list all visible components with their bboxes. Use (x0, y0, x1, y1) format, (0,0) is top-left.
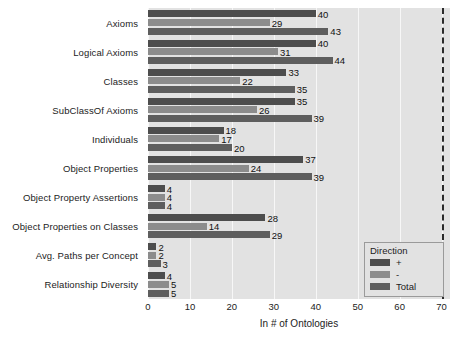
bar-value-label: 31 (278, 46, 291, 57)
y-axis-label: Object Properties (63, 163, 138, 174)
bar-value-label: 22 (240, 75, 253, 86)
bar-minus (148, 165, 249, 172)
y-axis-label: Relationship Diversity (44, 279, 138, 290)
legend-entry-label: Total (396, 282, 416, 291)
bar-value-label: 35 (295, 84, 308, 95)
bar-value-label: 5 (169, 288, 176, 299)
bar-minus (148, 194, 165, 201)
x-axis-tick-label: 70 (436, 301, 447, 312)
x-axis-tick-label: 20 (227, 301, 238, 312)
bar-total (148, 144, 232, 151)
x-axis-tick-label: 40 (310, 301, 321, 312)
y-axis-label: SubClassOf Axioms (52, 104, 138, 115)
bar-minus (148, 281, 169, 288)
legend-title: Direction (370, 245, 439, 256)
bar-value-label: 14 (207, 221, 220, 232)
y-axis-label: Object Property Assertions (23, 192, 138, 203)
bar-value-label: 37 (303, 154, 316, 165)
bar-plus (148, 69, 286, 76)
bar-value-label: 33 (286, 67, 299, 78)
gridline (358, 8, 359, 299)
bar-total (148, 28, 328, 35)
x-axis-tick-label: 50 (352, 301, 363, 312)
bar-value-label: 3 (161, 258, 168, 269)
bar-value-label: 39 (312, 171, 325, 182)
bar-value-label: 26 (257, 104, 270, 115)
x-axis-tick-label: 0 (145, 301, 150, 312)
bar-plus (148, 98, 295, 105)
bar-value-label: 17 (219, 133, 232, 144)
legend-entry[interactable]: - (370, 269, 439, 280)
gridline (316, 8, 317, 299)
bar-value-label: 40 (316, 8, 329, 19)
y-axis-label: Individuals (92, 133, 138, 144)
bar-value-label: 39 (312, 113, 325, 124)
y-axis-label: Avg. Paths per Concept (36, 250, 138, 261)
legend-entry[interactable]: + (370, 257, 439, 268)
bar-plus (148, 272, 165, 279)
legend-entries: +-Total (370, 257, 439, 292)
bar-value-label: 40 (316, 38, 329, 49)
bar-value-label: 29 (270, 17, 283, 28)
bar-total (148, 57, 333, 64)
bar-total (148, 173, 312, 180)
bar-value-label: 44 (333, 55, 346, 66)
legend-entry[interactable]: Total (370, 281, 439, 292)
x-axis-tick-label: 10 (185, 301, 196, 312)
bar-value-label: 35 (295, 96, 308, 107)
bar-value-label: 4 (165, 200, 172, 211)
bar-value-label: 28 (265, 212, 278, 223)
bar-total (148, 290, 169, 297)
bar-minus (148, 48, 278, 55)
bar-total (148, 115, 312, 122)
legend-entry-label: + (396, 258, 402, 267)
bar-minus (148, 223, 207, 230)
legend[interactable]: Direction +-Total (364, 242, 444, 297)
legend-swatch-icon (370, 283, 390, 290)
x-axis-tick-label: 60 (394, 301, 405, 312)
bar-minus (148, 19, 270, 26)
bar-total (148, 86, 295, 93)
legend-entry-label: - (396, 270, 399, 279)
bar-minus (148, 77, 240, 84)
legend-swatch-icon (370, 271, 390, 278)
y-axis-label: Axioms (106, 17, 138, 28)
x-axis-title: In # of Ontologies (148, 318, 450, 329)
bar-minus (148, 135, 219, 142)
bar-value-label: 24 (249, 163, 262, 174)
legend-swatch-icon (370, 259, 390, 266)
bar-plus (148, 127, 224, 134)
bar-chart: 4029434031443322353526391817203724394442… (0, 0, 468, 339)
x-axis-tick-label: 30 (269, 301, 280, 312)
bar-value-label: 29 (270, 229, 283, 240)
bar-plus (148, 243, 156, 250)
x-axis-ticks: 010203040506070 (148, 299, 450, 319)
y-axis-label: Object Properties on Classes (12, 221, 138, 232)
bar-value-label: 20 (232, 142, 245, 153)
bar-total (148, 260, 161, 267)
bar-minus (148, 252, 156, 259)
y-axis-category-labels: AxiomsLogical AxiomsClassesSubClassOf Ax… (0, 8, 144, 299)
bar-plus (148, 185, 165, 192)
bar-total (148, 202, 165, 209)
bar-plus (148, 10, 316, 17)
y-axis-label: Classes (104, 75, 139, 86)
bar-total (148, 231, 270, 238)
bar-plus (148, 40, 316, 47)
bar-minus (148, 106, 257, 113)
bar-value-label: 43 (328, 26, 341, 37)
y-axis-label: Logical Axioms (73, 46, 138, 57)
bar-plus (148, 156, 303, 163)
